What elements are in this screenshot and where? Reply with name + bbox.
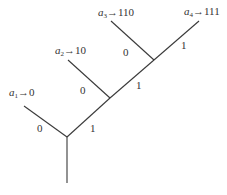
arrow-icon: → [193,5,204,17]
edge-node2-left [68,60,110,98]
edge-label-node2-left: 0 [80,85,86,96]
edge-label-node2-right: 1 [136,80,142,91]
leaf-label-a2: a2→10 [55,45,86,58]
leaf-label-a3: a3→110 [98,7,134,20]
leaf-code: 111 [204,5,220,17]
leaf-code: 110 [118,6,134,18]
edge-label-node1-right: 1 [90,123,96,134]
leaf-label-a4: a4→111 [184,6,220,19]
edge-node2-right [110,60,154,98]
leaf-code: 0 [29,86,35,98]
edge-node3-left [111,21,154,60]
edge-label-node3-right: 1 [181,40,187,51]
edge-label-node3-left: 0 [123,47,129,58]
arrow-icon: → [64,44,75,56]
code-tree-diagram: a1→0 a2→10 a3→110 a4→111 0 1 0 1 0 1 [0,0,227,195]
arrow-icon: → [18,86,29,98]
leaf-label-a1: a1→0 [9,87,35,100]
edge-label-node1-left: 0 [37,123,43,134]
edge-node3-right [154,21,199,60]
edge-node1-left [24,106,67,137]
leaf-code: 10 [75,44,86,56]
edge-node1-right [67,98,110,137]
arrow-icon: → [107,6,118,18]
